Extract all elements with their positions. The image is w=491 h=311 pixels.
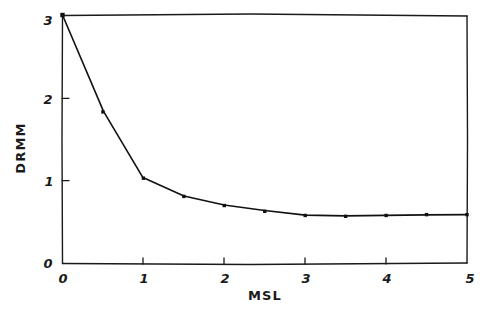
y-tick-label-2: 2 — [43, 92, 52, 107]
x-tick-label-4: 4 — [381, 271, 391, 286]
data-series-group — [60, 13, 468, 218]
data-point — [304, 214, 307, 217]
x-tick-labels: 0 1 2 3 4 5 — [58, 271, 474, 286]
x-tick-label-1: 1 — [139, 271, 148, 286]
plot-top-border — [63, 14, 467, 16]
y-tick-label-3: 3 — [43, 13, 52, 28]
chart-figure: 3 2 1 0 0 1 2 3 4 5 MSL DRMM — [0, 0, 491, 311]
y-axis-title: DRMM — [13, 122, 28, 173]
data-point — [101, 110, 104, 113]
x-axis-title: MSL — [248, 288, 282, 303]
axes-frame — [62, 14, 468, 265]
data-point — [425, 213, 428, 216]
data-point — [384, 214, 387, 217]
y-tick-label-0: 0 — [43, 256, 52, 271]
line-chart-svg: 3 2 1 0 0 1 2 3 4 5 MSL DRMM — [0, 0, 491, 311]
y-axis-line — [62, 15, 63, 264]
data-point — [182, 195, 185, 198]
y-tick-label-1: 1 — [44, 174, 53, 189]
x-tick-label-2: 2 — [220, 271, 229, 286]
data-point — [263, 210, 266, 213]
data-point — [344, 215, 347, 218]
plot-right-border — [467, 16, 468, 263]
x-tick-label-3: 3 — [301, 271, 310, 286]
data-point — [223, 204, 226, 207]
data-point — [60, 13, 64, 17]
data-series-line — [63, 15, 468, 216]
x-tick-label-0: 0 — [58, 271, 67, 286]
data-point — [142, 176, 145, 179]
data-point — [465, 213, 468, 216]
x-axis-line — [63, 263, 468, 265]
x-tick-label-5: 5 — [465, 271, 474, 286]
x-axis-ticks — [143, 258, 386, 264]
data-series-markers — [60, 13, 468, 218]
y-axis-ticks — [62, 98, 69, 180]
y-tick-labels: 3 2 1 0 — [43, 13, 53, 271]
